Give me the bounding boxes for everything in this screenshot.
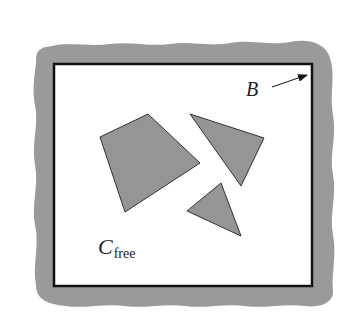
free-space-label-subscript: free <box>114 246 136 261</box>
free-space-label-main: C <box>98 234 113 259</box>
boundary-label: B <box>246 78 258 100</box>
configuration-space-diagram: B Cfree <box>0 0 361 329</box>
workspace-frame <box>54 64 312 286</box>
